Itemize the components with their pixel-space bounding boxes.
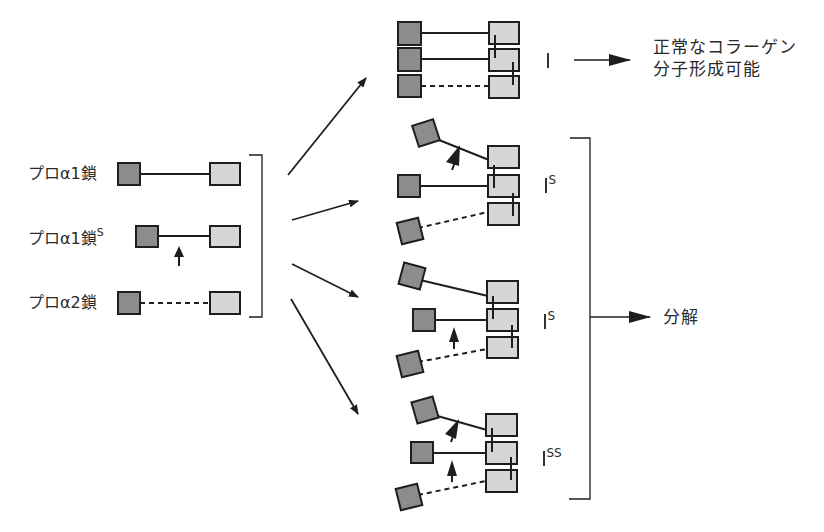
right-bracket [569, 138, 590, 499]
group-type-label: SS [543, 451, 562, 466]
chain-label-text: プロα2鎖 [28, 293, 97, 312]
mutation-arrow-icon [174, 246, 184, 266]
type-I-glyph [545, 178, 547, 193]
group-superscript: S [549, 173, 557, 187]
chain-label-text: プロα1鎖 [28, 229, 97, 248]
chain-label: プロα1鎖S [28, 229, 104, 247]
trimer-group-ss [396, 396, 517, 510]
outcome-normal-line1: 正常なコラーゲン [653, 36, 797, 58]
chain-label: プロα2鎖 [28, 295, 97, 311]
group-superscript: S [548, 309, 556, 323]
type-I-glyph [543, 451, 545, 466]
outcome-normal-line2: 分子形成可能 [653, 58, 797, 80]
chain-pro-alpha1 [118, 163, 240, 185]
type-I-glyph [547, 53, 549, 68]
chain-label-superscript: S [97, 226, 104, 239]
chain-label-text: プロα1鎖 [28, 164, 97, 183]
mutation-arrow-icon [449, 327, 459, 349]
group-type-label: S [545, 178, 556, 193]
trimer-group-s-1 [397, 119, 519, 244]
trimer-group-normal [398, 22, 519, 98]
n-propeptide-box [118, 163, 140, 185]
outcome-degradation: 分解 [663, 306, 699, 328]
group-superscript: SS [547, 446, 562, 460]
mutation-arrow-icon [445, 419, 459, 442]
c-propeptide-box [210, 163, 240, 185]
left-bracket [249, 155, 262, 317]
arrow-to-group-2 [292, 201, 358, 220]
chain-pro-alpha1-s [136, 226, 240, 247]
arrow-to-group-4 [291, 299, 358, 414]
arrow-to-group-1 [288, 78, 366, 175]
mutation-arrow-icon [446, 145, 460, 170]
outcome-normal: 正常なコラーゲン 分子形成可能 [653, 36, 797, 80]
group-type-label: S [544, 314, 555, 329]
type-I-glyph [544, 314, 546, 329]
group-type-label [547, 53, 551, 68]
arrow-to-group-3 [292, 264, 358, 297]
outcome-degradation-text: 分解 [663, 307, 699, 327]
chain-pro-alpha2 [118, 292, 240, 314]
chain-label: プロα1鎖 [28, 166, 97, 182]
mutation-arrow-icon [447, 460, 457, 482]
trimer-group-s-2 [397, 263, 518, 378]
